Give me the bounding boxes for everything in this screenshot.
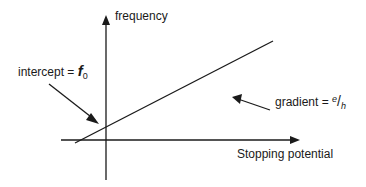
y-axis-arrowhead (102, 15, 110, 25)
gradient-label: gradient = e/h (275, 92, 346, 113)
intercept-label: intercept = f0 (18, 64, 88, 83)
gradient-text: gradient = (275, 95, 332, 109)
gradient-denominator: h (341, 101, 346, 111)
intercept-text: intercept = (18, 65, 78, 79)
gradient-arrowhead (232, 94, 242, 104)
gradient-pointer-arrow (238, 99, 270, 110)
x-axis-arrowhead (290, 136, 300, 144)
intercept-subscript: 0 (83, 71, 88, 81)
frequency-line (75, 41, 273, 143)
x-axis-label: Stopping potential (237, 147, 333, 161)
y-axis-label: frequency (115, 9, 168, 23)
intercept-pointer-arrow (49, 84, 95, 120)
